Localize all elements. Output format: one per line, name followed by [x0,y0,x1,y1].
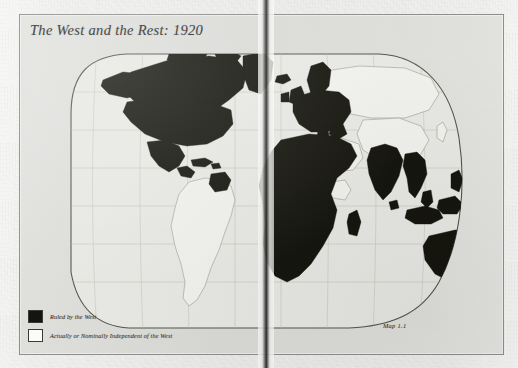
legend-label-independent: Actually or Nominally Independent of the… [50,332,172,339]
legend-swatch-ruled-icon [28,310,43,323]
ceylon-shape [389,200,399,210]
tasmania-shape [461,284,473,294]
map-plate-page: The West and the Rest: 1920 Ruled by the… [0,0,518,368]
map-legend: Ruled by the West Actually or Nominally … [28,310,233,348]
new-guinea-shape [477,204,502,220]
page-title: The West and the Rest: 1920 [30,22,203,39]
ireland-shape [281,92,289,102]
map-caption: Map 1.1 [383,322,406,329]
celebes-shape [459,202,477,218]
legend-swatch-independent-icon [28,329,43,342]
legend-item-independent: Actually or Nominally Independent of the… [28,329,233,342]
legend-label-ruled: Ruled by the West [50,313,96,320]
lesser-antilles-shape [211,163,221,169]
world-map-surface [19,14,502,353]
legend-item-ruled: Ruled by the West [28,310,233,323]
